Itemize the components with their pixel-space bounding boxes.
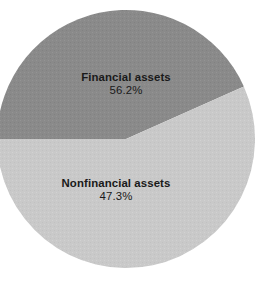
pie-chart-canvas [0, 0, 259, 288]
pie-label-nonfinancial-assets-value: 47.3% [0, 191, 232, 203]
pie-label-nonfinancial-assets-name: Nonfinancial assets [0, 178, 232, 190]
pie-label-nonfinancial-assets: Nonfinancial assets 47.3% [0, 178, 232, 202]
pie-label-financial-assets: Financial assets 56.2% [0, 72, 252, 96]
pie-chart: Financial assets 56.2% Nonfinancial asse… [0, 0, 259, 288]
pie-label-financial-assets-value: 56.2% [0, 85, 252, 97]
pie-label-financial-assets-name: Financial assets [0, 72, 252, 84]
